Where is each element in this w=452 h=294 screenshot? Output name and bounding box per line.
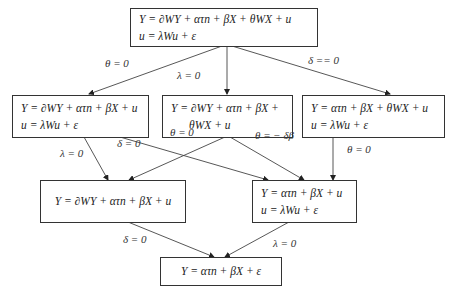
node-line: u = λWu + ε [311, 117, 436, 134]
edge-label: λ = 0 [177, 69, 200, 81]
node-sdm-sem: Y = ∂WY + ατn + βX + u u = λWu + ε [12, 95, 149, 138]
node-sdem: Y = ατn + βX + θWX + u u = λWu + ε [302, 95, 445, 138]
node-line: u = λWu + ε [21, 117, 140, 134]
node-sem: Y = ατn + βX + u u = λWu + ε [252, 180, 357, 223]
node-full-model: Y = ∂WY + ατn + βX + θWX + u u = λWu + ε [130, 8, 318, 47]
edge-top-r2-left [89, 46, 222, 94]
edge-label: δ == 0 [308, 54, 339, 66]
node-sar: Y = ∂WY + ατn + βX + u [40, 180, 186, 223]
node-line: Y = ατn + βX + θWX + u [311, 100, 436, 117]
node-line: u = λWu + ε [261, 202, 348, 219]
edge-r2left-r3left [84, 137, 108, 180]
edge-label: λ = 0 [273, 237, 296, 249]
edge-label: θ = 0 [105, 57, 129, 69]
edge-label: θ = − δβ [255, 129, 294, 141]
edge-r2mid-r3right [230, 137, 304, 180]
edge-label: δ = 0 [123, 233, 147, 245]
node-line: Y = ∂WY + ατn + βX + u [21, 100, 140, 117]
edge-label: δ = 0 [117, 137, 141, 149]
node-line: Y = ∂WY + ατn + βX + [171, 100, 284, 117]
edge-label: θ = 0 [347, 143, 371, 155]
node-ols: Y = ατn + βX + ε [160, 257, 282, 286]
node-line: Y = ∂WY + ατn + βX + u [55, 193, 172, 210]
edge-label: λ = 0 [60, 147, 83, 159]
node-line: Y = ατn + βX + u [261, 185, 348, 202]
node-line: Y = ∂WY + ατn + βX + θWX + u [139, 11, 309, 28]
node-line: Y = ατn + βX + ε [181, 263, 261, 280]
edge-label: θ = 0 [170, 126, 194, 138]
edge-r2left-r3right [120, 137, 268, 180]
node-line: u = λWu + ε [139, 28, 309, 45]
